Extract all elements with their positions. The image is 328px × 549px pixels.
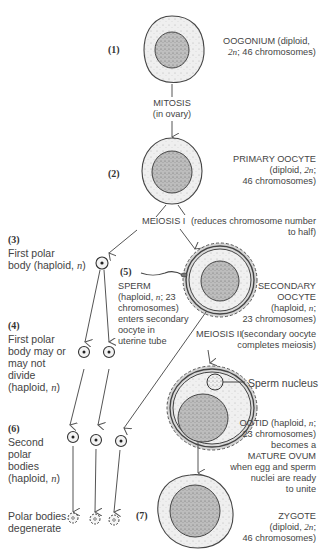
secondary-oocyte-detail-2: 23 chromosomes) [220, 314, 316, 325]
second-polar-body-3 [116, 436, 127, 447]
divided-polar-body-1 [79, 347, 90, 358]
stage-6-line-2: polar [8, 448, 31, 461]
zygote-detail-1: (diploid, 2n; [220, 522, 316, 533]
degenerate-line-1: Polar bodies [8, 510, 66, 523]
meiosis-1-note-2: to half) [190, 227, 316, 238]
sperm-detail-1: (haploid, n; 23 [118, 292, 176, 303]
ootid-line-7: to unite [210, 484, 316, 495]
first-polar-body-detail: body (haploid, n) [8, 259, 86, 273]
sperm-label: SPERM [118, 281, 151, 292]
stage-6-line-3: bodies [8, 460, 39, 473]
primary-oocyte-detail-1: (diploid, 2n; [220, 165, 316, 176]
stage-4-line-5: (haploid, n) [8, 381, 60, 395]
primary-oocyte-label: PRIMARY OOCYTE [220, 154, 316, 165]
stage-6-line-1: Second [8, 436, 44, 449]
stage-4-line-3: may not [8, 357, 45, 370]
stage-4-number: (4) [8, 320, 20, 331]
ootid-line-3: becomes a [210, 440, 316, 451]
degenerate-line-2: degenerate [8, 522, 61, 535]
ootid-line-1: OOTID (haploid, n; [210, 418, 316, 429]
stage-4-line-4: divide [8, 369, 35, 382]
divided-polar-body-2 [104, 347, 115, 358]
stage-6-line-4: (haploid, n) [8, 472, 60, 486]
primary-oocyte-detail-2: 46 chromosomes) [220, 176, 316, 187]
oogonium-cell [144, 16, 204, 82]
second-polar-body-2 [91, 435, 102, 446]
meiosis-2-note-2: completes meiosis) [220, 340, 316, 351]
zygote-label: ZYGOTE [230, 511, 316, 522]
stage-4-line-2: body may or [8, 345, 66, 358]
sperm-nucleus-label: Sperm nucleus [248, 377, 318, 390]
ootid-line-6: nuclei are ready [210, 473, 316, 484]
sperm-detail-5: uterine tube [118, 336, 167, 347]
mitosis-location: (in ovary) [150, 109, 194, 120]
second-polar-body-1 [68, 432, 79, 443]
oogonium-detail: 2n; 46 chromosomes) [228, 47, 316, 58]
sperm-detail-3: enters secondary [118, 314, 188, 325]
stage-1-number: (1) [108, 44, 120, 55]
ootid-line-2: 23 chromosomes) [210, 429, 316, 440]
stage-7-number: (7) [136, 510, 148, 521]
first-polar-body [96, 257, 108, 269]
meiosis-1-note-1: (reduces chromosome number [190, 216, 316, 227]
secondary-oocyte-label-1: SECONDARY [220, 281, 316, 292]
ootid-line-4: MATURE OVUM [210, 451, 316, 462]
mitosis-label: MITOSIS [150, 98, 194, 109]
stage-5-number: (5) [120, 266, 132, 277]
first-polar-body-label: First polar [8, 247, 55, 260]
ootid-line-5: when egg and sperm [210, 462, 316, 473]
sperm-detail-2: chromosomes) [118, 303, 179, 314]
sperm-icon [141, 272, 183, 276]
meiosis-2-note-1: (secondary oocyte [220, 329, 316, 340]
secondary-oocyte-detail-1: (haploid, n; [220, 303, 316, 314]
stage-2-number: (2) [108, 168, 120, 179]
primary-oocyte-cell [142, 138, 202, 204]
degenerating-polar-bodies [68, 513, 119, 525]
oogonium-label: OOGONIUM (diploid, [223, 36, 310, 47]
sperm-detail-4: oocyte in [118, 325, 155, 336]
stage-6-number: (6) [8, 423, 20, 434]
zygote-detail-2: 46 chromosomes) [220, 533, 316, 544]
secondary-oocyte-label-2: OOCYTE [220, 292, 316, 303]
stage-4-line-1: First polar [8, 333, 55, 346]
stage-3-number: (3) [8, 234, 20, 245]
meiosis-1-label: MEIOSIS I [142, 216, 185, 227]
